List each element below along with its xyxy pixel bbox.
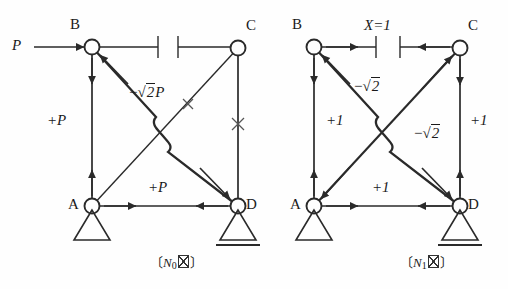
- node-c: [231, 41, 246, 56]
- arrow-bd-lower: [422, 168, 452, 199]
- force-label-left-chord: +P: [47, 113, 66, 128]
- node-label-b: B: [70, 17, 80, 32]
- support-roller-d: [438, 210, 482, 245]
- node-label-a: A: [290, 197, 301, 212]
- node-label-b: B: [292, 17, 302, 32]
- force-label-diagonal-bd: −√2P: [129, 84, 164, 100]
- force-label-bottom-chord: +P: [148, 180, 167, 195]
- node-label-a: A: [68, 197, 79, 212]
- support-pin-a: [296, 210, 332, 240]
- force-label-left-chord: +1: [326, 113, 344, 128]
- node-label-c: C: [468, 18, 478, 33]
- caption-n0-prefix: 〔: [150, 255, 163, 270]
- node-b: [85, 40, 100, 55]
- unit-load-label: X=1: [364, 18, 391, 33]
- node-c: [453, 41, 468, 56]
- force-label-right-chord: +1: [470, 113, 488, 128]
- support-pin-a: [74, 210, 110, 240]
- node-label-d: D: [468, 197, 479, 212]
- caption-n0-suffix: 〕: [190, 255, 203, 270]
- arrow-bd-upper: [322, 55, 350, 84]
- arrow-bd-upper: [100, 55, 128, 84]
- n0-svg-canvas: [0, 0, 254, 289]
- caption-n0: 〔N0〕: [150, 252, 203, 271]
- caption-n1: 〔N1〕: [400, 252, 453, 271]
- node-b: [307, 40, 322, 55]
- n1-svg-canvas: [254, 0, 508, 289]
- figure-root: P B C A D +P +P −√2P 〔N0〕: [0, 0, 508, 289]
- truss-diagram-n1: B C A D X=1 +1 +1 +1 −√2 −√2 〔N1〕: [254, 0, 508, 289]
- arrow-ac-upper: [422, 56, 452, 89]
- force-label-diagonal-ac: −√2: [414, 125, 440, 141]
- force-label-bottom-chord: +1: [372, 180, 390, 195]
- load-label-p: P: [12, 38, 21, 53]
- caption-n0-kanji-tofu: [178, 255, 189, 268]
- caption-n1-prefix: 〔: [400, 255, 413, 270]
- caption-n0-symbol: N: [163, 255, 172, 270]
- force-label-diagonal-bd: −√2: [354, 78, 380, 94]
- caption-n1-symbol: N: [413, 255, 422, 270]
- caption-n0-sub: 0: [172, 260, 177, 271]
- caption-n1-suffix: 〕: [440, 255, 453, 270]
- caption-n1-sub: 1: [422, 260, 427, 271]
- zero-force-marker-diagonal-ac: [183, 99, 193, 109]
- truss-diagram-n0: P B C A D +P +P −√2P 〔N0〕: [0, 0, 254, 289]
- arrow-ac-lower: [321, 167, 350, 199]
- arrow-bd-lower: [200, 168, 230, 199]
- caption-n1-kanji-tofu: [428, 255, 439, 268]
- diagonal-label-suffix: P: [155, 84, 164, 100]
